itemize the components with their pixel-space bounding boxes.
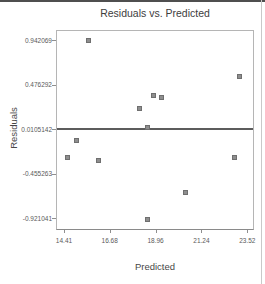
chart-title: Residuals vs. Predicted — [50, 7, 260, 19]
y-tick-mark — [52, 40, 56, 41]
y-tick-mark — [52, 174, 56, 175]
top-divider-rule — [0, 0, 265, 2]
data-point — [159, 95, 164, 100]
x-tick-mark — [64, 230, 65, 233]
y-tick-label: 0.476292 — [0, 81, 52, 88]
y-tick-label: -0.455263 — [0, 170, 52, 177]
x-tick-mark — [201, 230, 202, 233]
x-tick-label: 18.96 — [141, 237, 171, 244]
x-tick-label: 14.41 — [49, 237, 79, 244]
x-tick-mark — [110, 230, 111, 233]
x-axis-label: Predicted — [56, 261, 254, 272]
x-tick-label: 16.68 — [95, 237, 125, 244]
x-tick-label: 21.24 — [186, 237, 216, 244]
x-tick-mark — [156, 230, 157, 233]
data-point — [74, 138, 79, 143]
data-point — [86, 38, 91, 43]
data-point — [183, 190, 188, 195]
x-tick-mark — [247, 230, 248, 233]
residuals-chart-panel: Residuals vs. Predicted Residuals Predic… — [0, 0, 265, 284]
y-tick-label: 0.942069 — [0, 37, 52, 44]
y-tick-mark — [52, 129, 56, 130]
data-point — [65, 155, 70, 160]
y-tick-mark — [52, 218, 56, 219]
data-point — [237, 74, 242, 79]
data-point — [151, 93, 156, 98]
data-point — [145, 125, 150, 130]
data-point — [96, 158, 101, 163]
zero-reference-line — [57, 128, 253, 130]
x-tick-label: 23.52 — [232, 237, 262, 244]
y-tick-mark — [52, 85, 56, 86]
data-point — [145, 217, 150, 222]
data-point — [232, 155, 237, 160]
y-tick-label: -0.921041 — [0, 215, 52, 222]
data-point — [137, 106, 142, 111]
y-tick-label: 0.0105142 — [0, 126, 52, 133]
